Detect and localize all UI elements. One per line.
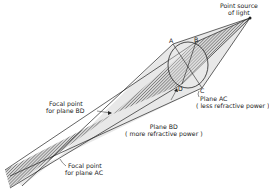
- lens-circle: [168, 42, 208, 88]
- label-plane-bd: Plane BD ( more refractive power ): [125, 123, 203, 137]
- label-focal-bd: Focal point for plane BD: [46, 100, 85, 114]
- label-point-c: C: [200, 87, 204, 94]
- label-plane-ac: Plane AC ( less refractive power ): [196, 95, 269, 109]
- astigmatism-diagram: Point source of light A B D C Plane AC (…: [0, 0, 269, 194]
- label-point-d: D: [178, 85, 183, 92]
- label-point-source: Point source of light: [220, 2, 258, 16]
- label-focal-ac: Focal point for plane AC: [65, 162, 103, 176]
- label-point-b: B: [194, 36, 198, 43]
- label-point-a: A: [169, 37, 173, 44]
- point-source-icon: [249, 17, 252, 20]
